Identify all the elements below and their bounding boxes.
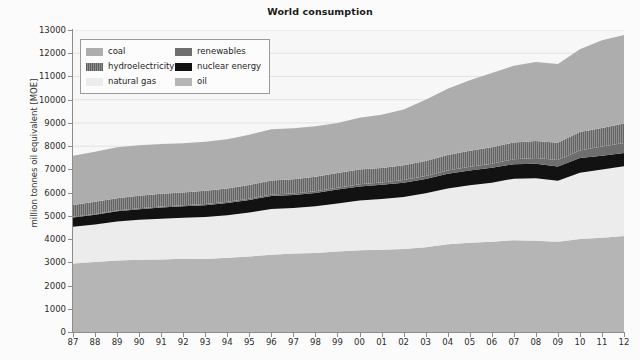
x-tick-mark <box>183 333 184 337</box>
y-tick-mark <box>68 262 73 263</box>
y-tick-label: 3000 <box>44 258 66 267</box>
legend-item-hydroelectricity[interactable]: hydroelectricity <box>86 62 175 71</box>
x-tick-label: 06 <box>480 338 504 347</box>
x-tick-mark <box>602 333 603 337</box>
y-tick-mark <box>68 286 73 287</box>
x-tick-mark <box>426 333 427 337</box>
hydroelectricity-swatch <box>86 63 103 71</box>
legend-item-renewables[interactable]: renewables <box>175 47 264 56</box>
y-tick-label: 0 <box>61 328 66 337</box>
legend-row: natural gas oil <box>86 74 264 89</box>
x-tick-label: 02 <box>392 338 416 347</box>
y-tick-mark <box>68 76 73 77</box>
legend-item-nuclear-energy[interactable]: nuclear energy <box>175 62 264 71</box>
x-tick-mark <box>249 333 250 337</box>
natural-gas-swatch <box>86 78 103 86</box>
y-tick-label: 13000 <box>39 26 66 35</box>
legend-label: renewables <box>197 47 246 56</box>
x-tick-label: 00 <box>348 338 372 347</box>
x-tick-label: 90 <box>127 338 151 347</box>
y-tick-mark <box>68 309 73 310</box>
legend-label: natural gas <box>108 77 156 86</box>
x-tick-mark <box>73 333 74 337</box>
x-tick-mark <box>337 333 338 337</box>
x-tick-label: 07 <box>502 338 526 347</box>
legend-label: oil <box>197 77 207 86</box>
x-tick-label: 92 <box>171 338 195 347</box>
x-tick-label: 88 <box>83 338 107 347</box>
oil-swatch <box>175 78 192 86</box>
y-tick-mark <box>68 146 73 147</box>
y-tick-label: 12000 <box>39 49 66 58</box>
x-tick-label: 95 <box>237 338 261 347</box>
legend-item-natural-gas[interactable]: natural gas <box>86 77 175 86</box>
chart-figure: World consumption million tonnes oil equ… <box>0 0 640 360</box>
x-tick-mark <box>514 333 515 337</box>
y-axis-title: million tonnes oil equivalent [MOE] <box>29 23 39 283</box>
y-tick-mark <box>68 53 73 54</box>
legend-row: hydroelectricity nuclear energy <box>86 59 264 74</box>
x-tick-label: 97 <box>281 338 305 347</box>
x-tick-label: 03 <box>414 338 438 347</box>
y-tick-label: 5000 <box>44 212 66 221</box>
legend-item-coal[interactable]: coal <box>86 47 175 56</box>
x-tick-label: 89 <box>105 338 129 347</box>
y-tick-mark <box>68 30 73 31</box>
x-tick-label: 87 <box>61 338 85 347</box>
x-tick-label: 91 <box>149 338 173 347</box>
legend-label: nuclear energy <box>197 62 261 71</box>
coal-swatch <box>86 48 103 56</box>
y-tick-mark <box>68 123 73 124</box>
y-tick-label: 6000 <box>44 189 66 198</box>
y-tick-mark <box>68 100 73 101</box>
y-tick-mark <box>68 239 73 240</box>
legend-item-oil[interactable]: oil <box>175 77 264 86</box>
x-tick-label: 11 <box>590 338 614 347</box>
y-tick-mark <box>68 193 73 194</box>
x-tick-mark <box>293 333 294 337</box>
y-tick-label: 11000 <box>39 72 66 81</box>
x-tick-label: 09 <box>546 338 570 347</box>
x-tick-mark <box>558 333 559 337</box>
y-axis-line <box>72 29 73 333</box>
page-title: World consumption <box>0 6 640 17</box>
x-tick-mark <box>271 333 272 337</box>
x-tick-label: 99 <box>325 338 349 347</box>
x-tick-label: 12 <box>612 338 636 347</box>
y-tick-label: 4000 <box>44 235 66 244</box>
y-tick-mark <box>68 169 73 170</box>
x-tick-mark <box>205 333 206 337</box>
x-tick-mark <box>382 333 383 337</box>
y-tick-label: 1000 <box>44 305 66 314</box>
legend-label: coal <box>108 47 125 56</box>
x-tick-mark <box>624 333 625 337</box>
x-tick-label: 05 <box>458 338 482 347</box>
legend-label: hydroelectricity <box>108 62 174 71</box>
y-tick-label: 10000 <box>39 96 66 105</box>
x-tick-mark <box>448 333 449 337</box>
x-tick-label: 10 <box>568 338 592 347</box>
x-tick-mark <box>536 333 537 337</box>
y-tick-mark <box>68 216 73 217</box>
y-tick-label: 8000 <box>44 142 66 151</box>
y-tick-label: 7000 <box>44 165 66 174</box>
x-axis-line <box>72 332 625 333</box>
nuclear-energy-swatch <box>175 63 192 71</box>
x-tick-mark <box>161 333 162 337</box>
x-tick-label: 01 <box>370 338 394 347</box>
x-tick-label: 04 <box>436 338 460 347</box>
x-tick-label: 08 <box>524 338 548 347</box>
legend-row: coal renewables <box>86 44 264 59</box>
y-tick-label: 9000 <box>44 119 66 128</box>
x-tick-mark <box>315 333 316 337</box>
x-tick-mark <box>470 333 471 337</box>
x-tick-mark <box>227 333 228 337</box>
x-tick-mark <box>580 333 581 337</box>
x-tick-mark <box>139 333 140 337</box>
x-tick-label: 93 <box>193 338 217 347</box>
chart-legend: coal renewables hydroelectricity nuclear… <box>80 39 270 94</box>
y-tick-label: 2000 <box>44 282 66 291</box>
x-tick-mark <box>492 333 493 337</box>
x-tick-label: 94 <box>215 338 239 347</box>
x-tick-mark <box>95 333 96 337</box>
